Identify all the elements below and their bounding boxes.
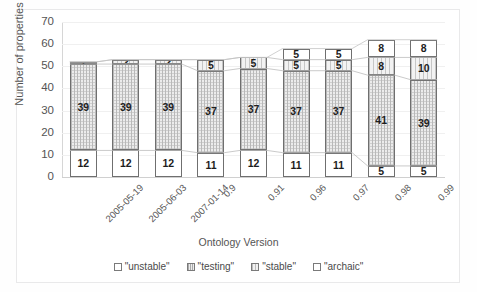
- bar-segment[interactable]: 5: [325, 49, 352, 60]
- bar-value-label: 39: [418, 118, 430, 129]
- bar-segment[interactable]: 12: [112, 150, 139, 177]
- bar-value-label: 37: [333, 106, 345, 117]
- bar-value-label: 5: [293, 60, 299, 71]
- legend-item[interactable]: "unstable": [114, 261, 170, 272]
- bar-segment[interactable]: 12: [70, 150, 97, 177]
- bar-value-label: 11: [205, 160, 216, 171]
- bar-value-label: 2: [123, 60, 129, 64]
- x-axis-title: Ontology Version: [0, 236, 477, 248]
- bar-segment[interactable]: 8: [410, 40, 437, 58]
- legend-swatch-icon: [313, 263, 321, 271]
- bar-value-label: 41: [375, 115, 387, 126]
- bar-value-label: 37: [248, 104, 260, 115]
- bar-segment[interactable]: 37: [283, 71, 310, 153]
- bar-segment[interactable]: 39: [70, 64, 97, 150]
- bar-value-label: 5: [421, 166, 427, 177]
- bar-segment[interactable]: 39: [112, 64, 139, 150]
- bar-value-label: 11: [333, 160, 344, 171]
- bar-column[interactable]: 113755: [283, 22, 310, 177]
- bar-segment[interactable]: 11: [283, 153, 310, 177]
- bar-value-label: 5: [336, 49, 342, 60]
- y-axis-title: Number of properties: [13, 0, 25, 119]
- bar-value-label: 12: [163, 158, 175, 169]
- y-tick-label: 20: [18, 126, 54, 138]
- bar-value-label: 5: [336, 60, 342, 71]
- bar-column[interactable]: 12375: [240, 22, 267, 177]
- bar-segment[interactable]: 37: [197, 71, 224, 153]
- legend-swatch-icon: [187, 263, 195, 271]
- bar-segment[interactable]: 12: [240, 150, 267, 177]
- bar-value-label: 39: [77, 102, 89, 113]
- bar-column[interactable]: 12392: [155, 22, 182, 177]
- legend-item[interactable]: "stable": [251, 261, 296, 272]
- bar-segment[interactable]: 2: [155, 60, 182, 64]
- bar-segment[interactable]: 41: [368, 75, 395, 166]
- y-tick-label: 0: [18, 170, 54, 182]
- chart-legend: "unstable""testing""stable""archaic": [0, 261, 477, 272]
- bar-value-label: 12: [77, 158, 89, 169]
- bar-value-label: 39: [120, 102, 132, 113]
- legend-swatch-icon: [114, 263, 122, 271]
- bar-value-label: 5: [378, 166, 384, 177]
- legend-item[interactable]: "testing": [187, 261, 235, 272]
- plot-area: 1239112392123921137512375113755113755541…: [62, 22, 445, 177]
- bar-column[interactable]: 12392: [112, 22, 139, 177]
- bar-segment[interactable]: 37: [240, 69, 267, 151]
- bar-segment[interactable]: 10: [410, 57, 437, 79]
- legend-swatch-icon: [251, 263, 259, 271]
- legend-label: "archaic": [324, 261, 363, 272]
- bar-segment[interactable]: 5: [283, 49, 310, 60]
- bar-segment[interactable]: 37: [325, 71, 352, 153]
- bar-value-label: 8: [378, 43, 384, 54]
- bar-value-label: 37: [290, 106, 302, 117]
- bar-column[interactable]: 11375: [197, 22, 224, 177]
- bar-value-label: 5: [293, 49, 299, 60]
- bar-segment[interactable]: 8: [368, 57, 395, 75]
- legend-item[interactable]: "archaic": [313, 261, 363, 272]
- bar-value-label: 8: [421, 43, 427, 54]
- bar-segment[interactable]: 1: [70, 62, 97, 64]
- bar-value-label: 39: [163, 102, 175, 113]
- bar-segment[interactable]: 5: [410, 166, 437, 177]
- bar-segment[interactable]: 5: [283, 60, 310, 71]
- bar-segment[interactable]: 5: [240, 57, 267, 68]
- bar-segment[interactable]: 11: [197, 153, 224, 177]
- bar-segment[interactable]: 5: [368, 166, 395, 177]
- bar-value-label: 2: [165, 60, 171, 64]
- bar-segment[interactable]: 39: [155, 64, 182, 150]
- bar-column[interactable]: 539108: [410, 22, 437, 177]
- chart-container: 010203040506070 Number of properties 123…: [0, 0, 477, 292]
- bar-segment[interactable]: 2: [112, 60, 139, 64]
- bar-segment[interactable]: 11: [325, 153, 352, 177]
- bar-column[interactable]: 12391: [70, 22, 97, 177]
- bar-value-label: 1: [80, 62, 86, 64]
- bar-segment[interactable]: 12: [155, 150, 182, 177]
- x-axis-line: [62, 177, 445, 178]
- bar-value-label: 5: [208, 60, 214, 71]
- bar-value-label: 37: [205, 106, 217, 117]
- legend-label: "testing": [198, 261, 235, 272]
- bar-value-label: 5: [251, 58, 257, 69]
- bar-value-label: 10: [418, 63, 430, 74]
- bar-value-label: 8: [378, 61, 384, 72]
- bar-segment[interactable]: 5: [325, 60, 352, 71]
- bar-segment[interactable]: 8: [368, 40, 395, 58]
- legend-label: "unstable": [125, 261, 170, 272]
- bar-column[interactable]: 113755: [325, 22, 352, 177]
- legend-label: "stable": [262, 261, 296, 272]
- y-tick-label: 10: [18, 148, 54, 160]
- bar-segment[interactable]: 5: [197, 60, 224, 71]
- bar-value-label: 11: [290, 160, 301, 171]
- bar-column[interactable]: 54188: [368, 22, 395, 177]
- bar-value-label: 12: [120, 158, 132, 169]
- bar-segment[interactable]: 39: [410, 80, 437, 166]
- bar-value-label: 12: [248, 158, 260, 169]
